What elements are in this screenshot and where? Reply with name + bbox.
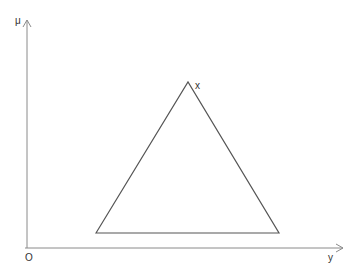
origin-label: O <box>25 253 33 263</box>
apex-label: x <box>195 81 200 91</box>
membership-diagram <box>0 0 358 275</box>
x-axis-label: y <box>328 253 333 263</box>
triangle-shape <box>96 82 279 233</box>
y-axis-label: μ <box>15 16 21 26</box>
